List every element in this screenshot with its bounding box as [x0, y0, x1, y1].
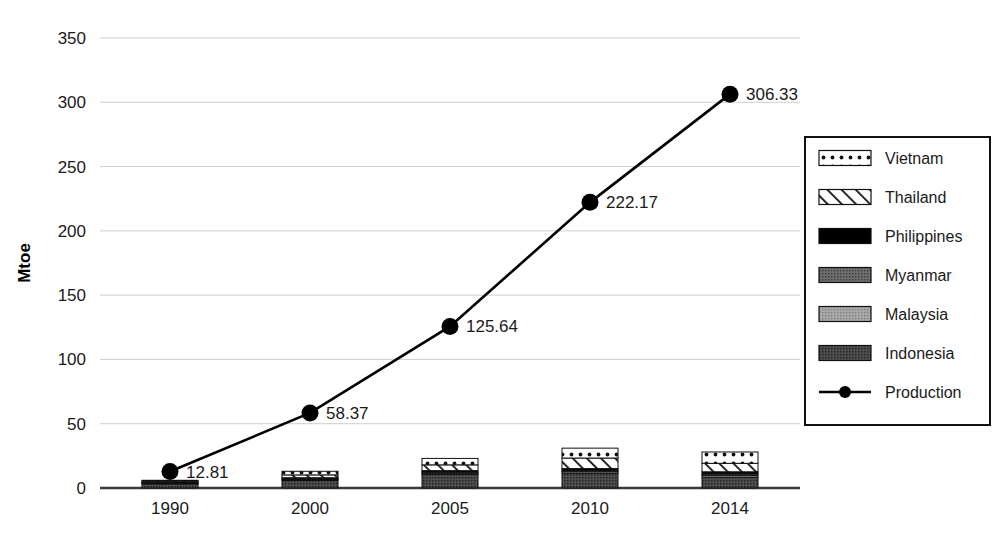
bar-segment-vietnam[interactable] — [562, 448, 618, 458]
legend-item-label: Indonesia — [885, 345, 954, 362]
bar-segment-indonesia[interactable] — [702, 477, 758, 488]
x-axis-tick-label: 2014 — [711, 499, 749, 518]
production-value-label: 58.37 — [326, 404, 369, 423]
production-marker[interactable] — [302, 404, 319, 421]
legend-swatch-thailand — [819, 190, 871, 205]
y-axis-tick-label: 150 — [58, 286, 86, 305]
y-axis-tick-label: 50 — [67, 415, 86, 434]
bar-segment-thailand[interactable] — [422, 465, 478, 471]
legend-swatch-philippines — [819, 229, 871, 244]
stacked-bar[interactable] — [422, 458, 478, 488]
production-value-label: 125.64 — [466, 317, 518, 336]
legend-item[interactable]: Myanmar — [819, 267, 952, 284]
bar-segment-thailand[interactable] — [702, 463, 758, 471]
bar-segment-indonesia[interactable] — [562, 473, 618, 488]
bar-segment-vietnam[interactable] — [422, 458, 478, 464]
bar-segment-indonesia[interactable] — [282, 481, 338, 488]
legend-item-label: Myanmar — [885, 267, 952, 284]
legend-swatch-marker — [839, 386, 851, 398]
mtoe-stacked-bar-line-chart: 050100150200250300350 Mtoe 1990200020052… — [0, 0, 997, 550]
y-axis-tick-label: 0 — [77, 479, 86, 498]
y-axis-tick-label: 300 — [58, 93, 86, 112]
bar-segment-thailand[interactable] — [562, 458, 618, 469]
legend-item-label: Thailand — [885, 189, 946, 206]
legend-swatch-myanmar — [819, 268, 871, 283]
production-marker[interactable] — [582, 194, 599, 211]
stacked-bar[interactable] — [282, 471, 338, 488]
legend-item[interactable]: Philippines — [819, 228, 962, 245]
x-axis-tick-label: 2010 — [571, 499, 609, 518]
legend-item[interactable]: Indonesia — [819, 345, 954, 362]
stacked-bar[interactable] — [702, 452, 758, 488]
y-axis-tick-label: 250 — [58, 158, 86, 177]
stacked-bar[interactable] — [562, 448, 618, 488]
legend-item-label: Malaysia — [885, 306, 948, 323]
production-marker[interactable] — [162, 463, 179, 480]
production-value-label: 12.81 — [186, 463, 229, 482]
production-value-label: 306.33 — [746, 85, 798, 104]
production-marker[interactable] — [722, 86, 739, 103]
production-value-label: 222.17 — [606, 193, 658, 212]
bar-segment-vietnam[interactable] — [702, 452, 758, 463]
y-axis-title: Mtoe — [15, 243, 34, 283]
production-marker[interactable] — [442, 318, 459, 335]
legend-item-label: Production — [885, 384, 962, 401]
x-axis-tick-label: 1990 — [151, 499, 189, 518]
legend-swatch-vietnam — [819, 151, 871, 166]
chart-container: 050100150200250300350 Mtoe 1990200020052… — [0, 0, 997, 550]
legend-item-label: Vietnam — [885, 150, 943, 167]
legend-swatch-indonesia — [819, 346, 871, 361]
legend-item-label: Philippines — [885, 228, 962, 245]
legend-swatch-malaysia — [819, 307, 871, 322]
bar-segment-vietnam[interactable] — [282, 471, 338, 475]
bar-segment-indonesia[interactable] — [422, 475, 478, 489]
x-axis-tick-label: 2000 — [291, 499, 329, 518]
x-axis-tick-label: 2005 — [431, 499, 469, 518]
y-axis-tick-label: 200 — [58, 222, 86, 241]
y-axis-tick-label: 350 — [58, 29, 86, 48]
y-axis-tick-label: 100 — [58, 350, 86, 369]
